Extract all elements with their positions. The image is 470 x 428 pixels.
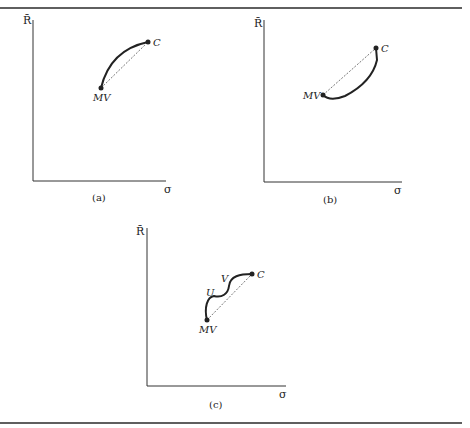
chord <box>323 48 376 95</box>
point-mv <box>205 318 210 323</box>
point-c <box>250 272 255 277</box>
x-axis-label: σ <box>164 183 172 196</box>
frontier-curve <box>323 48 377 99</box>
x-axis-label: σ <box>279 388 287 401</box>
axes <box>147 228 286 386</box>
label-c: C <box>257 269 265 280</box>
caption: (a) <box>92 192 106 203</box>
label-u: U <box>206 287 215 298</box>
label-c: C <box>153 37 161 48</box>
caption: (c) <box>209 399 223 410</box>
y-axis-label: R̄ <box>23 14 32 27</box>
label-v: V <box>221 273 230 284</box>
panel-a: R̄ σ MV C (a) <box>23 14 172 203</box>
panel-b: R̄ σ MV C (b) <box>254 17 402 205</box>
label-mv: MV <box>92 92 112 103</box>
chord <box>101 42 148 88</box>
point-c <box>146 40 151 45</box>
point-mv <box>321 93 326 98</box>
panel-c: R̄ σ MV C U V (c) <box>136 225 287 410</box>
x-axis-label: σ <box>394 184 402 197</box>
label-mv: MV <box>198 324 218 335</box>
point-mv <box>99 86 104 91</box>
label-mv: MV <box>302 90 322 101</box>
caption: (b) <box>323 194 337 205</box>
point-c <box>374 46 379 51</box>
label-c: C <box>381 43 389 54</box>
y-axis-label: R̄ <box>136 225 145 238</box>
figure: R̄ σ MV C (a) R̄ σ MV C (b) R̄ σ MV C U … <box>0 0 470 428</box>
y-axis-label: R̄ <box>254 17 263 30</box>
